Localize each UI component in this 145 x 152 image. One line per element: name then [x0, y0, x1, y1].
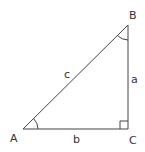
angle-a-arc [34, 119, 38, 130]
side-label-c: c [64, 68, 70, 81]
right-angle-marker [120, 121, 128, 129]
vertex-label-a: A [10, 132, 18, 145]
side-label-b: b [73, 133, 80, 146]
side-label-a: a [131, 73, 138, 86]
right-triangle-diagram: A B C a b c [0, 0, 145, 152]
vertex-label-c: C [129, 134, 137, 147]
angle-b-arc [117, 36, 128, 41]
side-c-line [23, 25, 128, 129]
vertex-label-b: B [129, 9, 137, 22]
